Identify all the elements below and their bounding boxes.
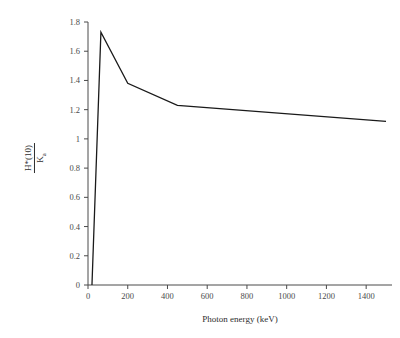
y-axis-tick-label: 1.8: [69, 17, 80, 27]
x-axis-tick-label: 0: [86, 291, 90, 301]
y-axis-tick-label: 1: [76, 134, 80, 144]
y-axis-tick-label: 0.6: [69, 192, 80, 202]
chart-figure: H*(10) Ka 00.20.40.60.811.21.41.61.8 020…: [0, 0, 400, 338]
plot-area: 00.20.40.60.811.21.41.61.8 0200400600800…: [0, 0, 400, 338]
y-axis-tick-label: 1.2: [69, 105, 80, 115]
y-axis-tick-label: 0: [76, 280, 80, 290]
x-axis-tick-label: 400: [161, 291, 174, 301]
y-axis-tick-label: 0.2: [69, 251, 80, 261]
x-axis-tick-label: 800: [241, 291, 254, 301]
y-axis-tick-label: 1.4: [69, 75, 80, 85]
x-axis-tick-label: 1400: [358, 291, 375, 301]
x-axis-title: Photon energy (keV): [202, 314, 277, 324]
y-axis-ticks: 00.20.40.60.811.21.41.61.8: [69, 17, 88, 290]
y-axis-tick-label: 0.8: [69, 163, 80, 173]
y-axis-tick-label: 0.4: [69, 222, 80, 232]
data-series-line: [92, 32, 386, 285]
x-axis-tick-label: 200: [121, 291, 134, 301]
x-axis-ticks: 0200400600800100012001400: [86, 285, 375, 301]
x-axis-tick-label: 1200: [318, 291, 335, 301]
x-axis-tick-label: 1000: [278, 291, 295, 301]
x-axis-tick-label: 600: [201, 291, 214, 301]
y-axis-tick-label: 1.6: [69, 46, 80, 56]
